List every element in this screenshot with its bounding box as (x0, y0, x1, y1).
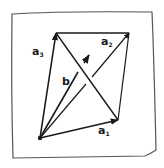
label-a1: a1 (98, 124, 110, 137)
label-b: b (62, 75, 70, 88)
origin-point (38, 136, 42, 140)
right-edge (118, 33, 129, 120)
small-direction-arrow (84, 55, 89, 63)
label-a3: a3 (32, 45, 44, 58)
label-a2: a2 (101, 35, 113, 48)
vector-diagram: a3 a2 b a1 (0, 0, 164, 168)
vector-a2-arrow-upper (92, 33, 129, 77)
